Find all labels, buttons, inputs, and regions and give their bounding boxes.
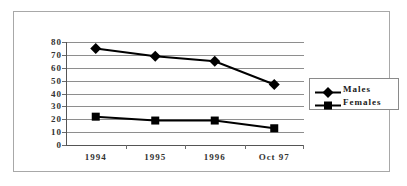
x-axis-tick (126, 145, 127, 149)
square-marker (324, 101, 332, 109)
y-axis-tick-label: 60 (40, 64, 62, 73)
legend-label: Females (343, 97, 382, 107)
square-marker (211, 117, 219, 125)
plot-area (66, 42, 304, 145)
series-line (96, 117, 275, 129)
y-axis-tick-label: 20 (40, 115, 62, 124)
x-axis-tick-label: 1996 (185, 152, 245, 162)
diamond-marker (269, 79, 280, 90)
series-females (92, 113, 279, 133)
square-marker (92, 113, 100, 121)
x-axis-tick-label: 1994 (66, 152, 126, 162)
y-axis-tick-label: 40 (40, 90, 62, 99)
series-males (90, 43, 280, 90)
legend-item-females: Females (314, 95, 382, 109)
chart-legend: MalesFemales (309, 78, 399, 110)
x-axis-tick (185, 145, 186, 149)
x-axis-tick (245, 145, 246, 149)
series-line (96, 48, 275, 84)
diamond-marker (150, 51, 161, 62)
x-axis-tick (303, 145, 304, 149)
y-axis-tick-label: 50 (40, 77, 62, 86)
y-axis-tick-label: 30 (40, 102, 62, 111)
y-axis-tick-label: 0 (40, 141, 62, 150)
legend-label: Males (343, 84, 371, 94)
square-marker (270, 124, 278, 132)
x-axis-labels: 199419951996Oct 97 (66, 152, 304, 166)
y-axis-tick-label: 10 (40, 128, 62, 137)
diamond-marker (90, 43, 101, 54)
y-axis-tick-label: 80 (40, 38, 62, 47)
legend-item-males: Males (314, 82, 371, 96)
diamond-marker (209, 56, 220, 67)
x-axis-tick-label: 1995 (126, 152, 186, 162)
x-axis-tick-label: Oct 97 (245, 152, 305, 162)
square-marker (314, 97, 342, 108)
chart-frame: 80706050403020100 199419951996Oct 97 Mal… (13, 11, 390, 172)
y-axis-labels: 80706050403020100 (36, 42, 62, 145)
series-plot (66, 42, 304, 145)
square-marker (151, 117, 159, 125)
diamond-marker (314, 84, 342, 95)
y-axis-tick-label: 70 (40, 51, 62, 60)
